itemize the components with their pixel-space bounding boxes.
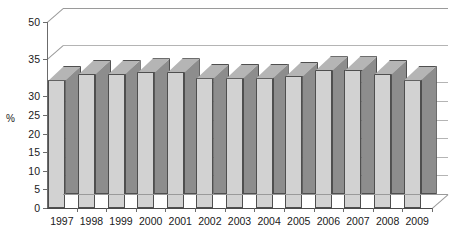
- x-tick-label-2008: 2008: [373, 216, 403, 227]
- x-tick-label-2007: 2007: [343, 216, 373, 227]
- bar-2008: [374, 60, 407, 208]
- x-tick-label-2006: 2006: [314, 216, 344, 227]
- x-tick-label-2002: 2002: [195, 216, 225, 227]
- gridline-back: [63, 8, 448, 9]
- bar-1999: [108, 60, 141, 208]
- bar-2005: [285, 62, 318, 208]
- y-tick-mark: [43, 96, 47, 97]
- y-tick-label: 10: [18, 166, 40, 176]
- y-tick-label: 35: [18, 54, 40, 64]
- bar-front-face: [256, 78, 273, 208]
- bar-2002: [196, 64, 229, 208]
- x-tick-mark: [225, 208, 226, 212]
- gridline: [63, 45, 448, 46]
- gridline-depth-connector: [47, 8, 64, 23]
- bar-1998: [78, 60, 111, 208]
- bar-2000: [137, 58, 170, 208]
- y-tick-mark: [43, 152, 47, 153]
- y-tick-mark: [43, 171, 47, 172]
- x-tick-label-2005: 2005: [284, 216, 314, 227]
- y-tick-label: 5: [18, 184, 40, 194]
- bar-front-face: [404, 80, 421, 208]
- x-tick-mark: [343, 208, 344, 212]
- x-tick-mark: [136, 208, 137, 212]
- y-tick-label: 15: [18, 147, 40, 157]
- x-tick-mark: [373, 208, 374, 212]
- x-tick-label-1999: 1999: [106, 216, 136, 227]
- y-axis-title: %: [6, 113, 15, 124]
- floor-back-line: [63, 194, 448, 195]
- y-tick-label: 30: [18, 91, 40, 101]
- gridline-depth-connector: [47, 45, 64, 60]
- bar-front-face: [344, 70, 361, 208]
- bar-front-face: [48, 80, 65, 208]
- bar-front-face: [78, 74, 95, 208]
- y-tick-mark: [43, 59, 47, 60]
- x-tick-mark: [402, 208, 403, 212]
- y-tick-label: 25: [18, 110, 40, 120]
- x-tick-label-1998: 1998: [77, 216, 107, 227]
- bar-2003: [226, 64, 259, 208]
- bar-chart: % 5035302520151050 199719981999200020012…: [0, 0, 455, 239]
- bar-front-face: [137, 72, 154, 208]
- x-tick-mark: [165, 208, 166, 212]
- x-tick-mark: [254, 208, 255, 212]
- bar-2006: [315, 56, 348, 208]
- bar-front-face: [226, 78, 243, 208]
- bar-front-face: [196, 78, 213, 208]
- x-tick-label-1997: 1997: [47, 216, 77, 227]
- y-tick-mark: [43, 134, 47, 135]
- x-axis-baseline: [47, 208, 432, 209]
- x-tick-label-2009: 2009: [402, 216, 432, 227]
- y-tick-label: 20: [18, 129, 40, 139]
- bar-front-face: [285, 76, 302, 208]
- bar-2009: [404, 66, 437, 208]
- bar-front-face: [108, 74, 125, 208]
- x-tick-mark: [195, 208, 196, 212]
- x-tick-mark: [284, 208, 285, 212]
- x-tick-label-2000: 2000: [136, 216, 166, 227]
- bar-2001: [167, 58, 200, 208]
- x-tick-mark: [432, 208, 433, 212]
- bar-2004: [256, 64, 289, 208]
- x-tick-mark: [314, 208, 315, 212]
- x-tick-label-2004: 2004: [254, 216, 284, 227]
- y-tick-mark: [43, 115, 47, 116]
- y-tick-mark: [43, 189, 47, 190]
- bar-1997: [48, 66, 81, 208]
- bar-2007: [344, 56, 377, 208]
- x-tick-mark: [77, 208, 78, 212]
- y-tick-mark: [43, 22, 47, 23]
- x-tick-label-2003: 2003: [225, 216, 255, 227]
- x-tick-label-2001: 2001: [165, 216, 195, 227]
- bar-front-face: [315, 70, 332, 208]
- y-tick-label: 50: [18, 17, 40, 27]
- bar-front-face: [167, 72, 184, 208]
- bar-side-face: [421, 66, 437, 194]
- bar-front-face: [374, 74, 391, 208]
- y-tick-label: 0: [18, 203, 40, 213]
- x-tick-mark: [106, 208, 107, 212]
